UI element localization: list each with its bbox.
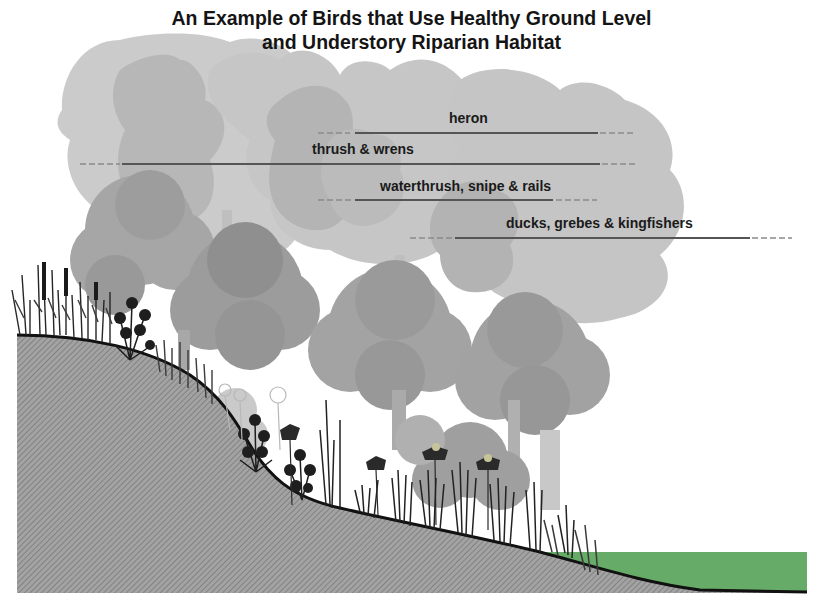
zone-label-waterthrush-snipe-rails: waterthrush, snipe & rails (380, 178, 551, 194)
diagram-title: An Example of Birds that Use Healthy Gro… (0, 6, 823, 54)
zone-label-heron: heron (449, 110, 488, 126)
title-line-2: and Understory Riparian Habitat (0, 30, 823, 54)
round-tree-3 (308, 260, 472, 410)
zone-label-thrush-wrens: thrush & wrens (312, 141, 414, 157)
title-line-1: An Example of Birds that Use Healthy Gro… (0, 6, 823, 30)
zone-label-ducks-grebes-kingfishers: ducks, grebes & kingfishers (506, 215, 693, 231)
tall-tree-right-dark (430, 181, 519, 292)
riparian-scene (0, 0, 823, 604)
background-trunk (540, 430, 560, 510)
